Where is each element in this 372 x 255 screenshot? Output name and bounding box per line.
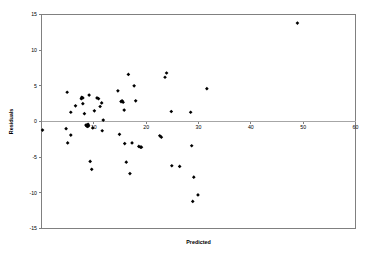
data-point [128,172,132,176]
data-point [127,73,131,77]
y-tick-label: -15 [30,225,38,231]
data-point [90,167,94,171]
data-point [66,141,70,145]
x-tick-label: 40 [248,124,254,130]
y-axis-title: Residuals [8,109,14,134]
data-point [132,84,136,88]
data-point [178,165,182,169]
data-point [122,108,126,112]
data-point [87,93,91,97]
residual-scatter-chart: -15-10-5051015 102030405060 Predicted Re… [0,0,372,255]
data-point [163,75,167,79]
data-point [123,142,127,146]
x-tick-label: 50 [300,124,306,130]
data-point [116,89,120,93]
y-axis-ticks: -15-10-5051015 [30,11,42,231]
data-point [88,160,92,164]
data-point [196,193,200,197]
y-tick-label: 15 [31,11,37,17]
data-point [69,133,73,137]
y-tick-label: 10 [31,47,37,53]
data-point [93,109,97,113]
data-point [189,110,193,114]
data-point [191,200,195,204]
data-point [124,160,128,164]
x-tick-label: 20 [143,124,149,130]
data-point [296,21,300,25]
data-point [205,87,209,91]
x-axis-title: Predicted [186,239,211,245]
data-point [64,127,68,131]
x-tick-label: 10 [91,124,97,130]
data-point [130,141,134,145]
data-point [170,164,174,168]
data-point [118,132,122,136]
y-tick-label: 5 [34,83,37,89]
data-point [165,71,169,75]
data-point [74,104,78,108]
x-tick-label: 60 [353,124,359,130]
data-point [69,110,73,114]
data-point [65,90,69,94]
data-points-layer [41,21,300,203]
y-tick-label: -5 [32,154,37,160]
data-point [81,102,85,106]
data-point [190,144,194,148]
x-tick-label: 30 [196,124,202,130]
data-point [169,110,173,114]
data-point [100,101,104,105]
plot-canvas: -15-10-5051015 102030405060 Predicted Re… [0,0,372,255]
data-point [134,99,138,103]
data-point [83,112,87,116]
data-point [192,175,196,179]
y-tick-label: -10 [30,190,38,196]
data-point [100,129,104,133]
y-tick-label: 0 [34,118,37,124]
data-point [98,105,102,109]
